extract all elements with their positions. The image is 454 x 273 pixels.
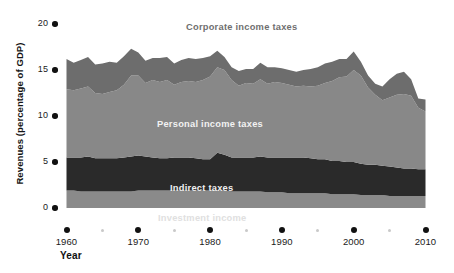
series-label: Personal income taxes: [157, 119, 263, 129]
series-label: Investment income: [158, 213, 246, 223]
series-label: Corporate income taxes: [186, 22, 297, 32]
stacked-area-plot: [0, 0, 454, 273]
chart-container: Revenues (percentage of GDP) Year 051015…: [0, 0, 454, 273]
series-label: Indirect taxes: [170, 183, 233, 193]
